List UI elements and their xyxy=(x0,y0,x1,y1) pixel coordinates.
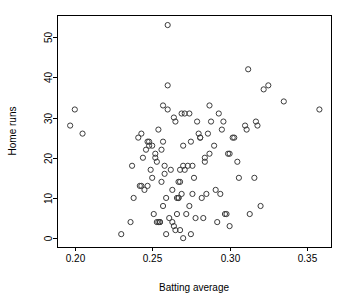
data-point xyxy=(165,107,170,112)
plot-frame xyxy=(58,16,332,248)
data-point xyxy=(139,131,144,136)
data-point xyxy=(213,187,218,192)
y-tick-label: 30 xyxy=(43,113,54,125)
data-point xyxy=(193,215,198,220)
data-point xyxy=(195,119,200,124)
data-point xyxy=(174,211,179,216)
data-point xyxy=(188,232,193,237)
data-point xyxy=(68,123,73,128)
data-point xyxy=(199,195,204,200)
data-point xyxy=(119,232,124,237)
x-axis: 0.200.250.300.35 xyxy=(66,247,318,264)
plot-canvas: 0.200.250.300.35 01020304050 Batting ave… xyxy=(0,0,347,302)
data-point xyxy=(219,127,224,132)
data-point xyxy=(160,139,165,144)
data-point xyxy=(159,179,164,184)
data-point xyxy=(140,155,145,160)
data-point xyxy=(207,151,212,156)
data-point xyxy=(164,195,169,200)
plot-border xyxy=(58,16,332,248)
data-point xyxy=(208,119,213,124)
data-point xyxy=(150,175,155,180)
x-tick-label: 0.30 xyxy=(221,253,241,264)
scatter-plot-figure: 0.200.250.300.35 01020304050 Batting ave… xyxy=(0,0,347,302)
y-tick-label: 50 xyxy=(43,32,54,44)
data-point xyxy=(212,143,217,148)
data-point xyxy=(151,211,156,216)
data-point xyxy=(165,22,170,27)
y-tick-label: 0 xyxy=(43,235,54,241)
data-point xyxy=(204,191,209,196)
data-point xyxy=(188,139,193,144)
data-point xyxy=(148,167,153,172)
data-point xyxy=(190,191,195,196)
data-point xyxy=(221,119,226,124)
data-point xyxy=(170,187,175,192)
data-point xyxy=(164,232,169,237)
data-point xyxy=(247,211,252,216)
data-point xyxy=(252,175,257,180)
data-point xyxy=(181,236,186,241)
data-point xyxy=(236,175,241,180)
y-tick-label: 40 xyxy=(43,72,54,84)
data-point xyxy=(281,99,286,104)
data-point xyxy=(184,211,189,216)
data-point xyxy=(145,183,150,188)
data-point xyxy=(235,159,240,164)
data-point xyxy=(128,219,133,224)
data-point xyxy=(218,191,223,196)
data-point xyxy=(227,223,232,228)
data-point xyxy=(165,83,170,88)
data-point xyxy=(168,167,173,172)
data-point xyxy=(207,103,212,108)
data-point xyxy=(131,195,136,200)
x-axis-label: Batting average xyxy=(159,282,229,293)
data-point xyxy=(317,107,322,112)
x-tick-label: 0.20 xyxy=(66,253,86,264)
y-axis-label: Home runs xyxy=(7,107,18,156)
y-tick-label: 20 xyxy=(43,153,54,165)
data-point xyxy=(160,203,165,208)
data-point xyxy=(129,163,134,168)
x-tick-label: 0.35 xyxy=(298,253,318,264)
data-point xyxy=(80,131,85,136)
data-point xyxy=(72,107,77,112)
data-point xyxy=(215,219,220,224)
data-points xyxy=(68,22,322,240)
data-point xyxy=(179,191,184,196)
data-point xyxy=(159,147,164,152)
x-tick-label: 0.25 xyxy=(143,253,163,264)
data-point xyxy=(187,203,192,208)
data-point xyxy=(266,83,271,88)
data-point xyxy=(156,127,161,132)
data-point xyxy=(246,67,251,72)
data-point xyxy=(162,171,167,176)
data-point xyxy=(160,103,165,108)
data-point xyxy=(258,203,263,208)
y-tick-label: 10 xyxy=(43,193,54,205)
y-axis: 01020304050 xyxy=(43,32,57,242)
data-point xyxy=(191,175,196,180)
data-point xyxy=(216,111,221,116)
data-point xyxy=(261,87,266,92)
data-point xyxy=(201,215,206,220)
data-point xyxy=(181,143,186,148)
data-point xyxy=(205,131,210,136)
data-point xyxy=(162,163,167,168)
